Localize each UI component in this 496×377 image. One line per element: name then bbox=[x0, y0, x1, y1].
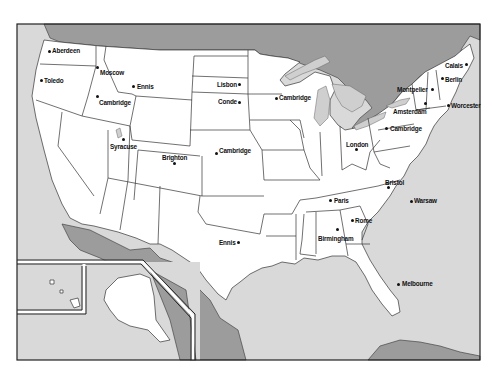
city-marker bbox=[385, 127, 388, 130]
city-marker bbox=[238, 101, 241, 104]
city-marker bbox=[431, 88, 434, 91]
city-label: Calais bbox=[445, 61, 463, 70]
city-marker bbox=[336, 228, 339, 231]
city-label: Cambridge bbox=[99, 98, 131, 107]
city-label: Warsaw bbox=[414, 196, 437, 205]
city-label: Cambridge bbox=[279, 93, 311, 102]
city-label: Worcester bbox=[451, 101, 481, 110]
city-marker bbox=[122, 138, 125, 141]
city-label: Aberdeen bbox=[52, 46, 80, 55]
city-marker bbox=[238, 83, 241, 86]
inset-panels bbox=[17, 260, 200, 360]
city-label: London bbox=[346, 140, 368, 149]
city-label: Amsterdam bbox=[393, 107, 427, 116]
city-marker bbox=[96, 66, 99, 69]
city-marker bbox=[40, 79, 43, 82]
city-label: Bristol bbox=[385, 178, 404, 187]
city-label: Lisbon bbox=[217, 80, 237, 89]
city-marker bbox=[397, 283, 400, 286]
city-label: Toledo bbox=[44, 76, 63, 85]
city-marker bbox=[48, 50, 51, 53]
city-label: Ennis bbox=[219, 238, 236, 247]
city-marker bbox=[132, 85, 135, 88]
city-label: Birmingham bbox=[318, 234, 354, 243]
city-label: Brighton bbox=[162, 153, 187, 162]
city-marker bbox=[215, 152, 218, 155]
city-marker bbox=[424, 102, 427, 105]
city-label: Montpelier bbox=[397, 85, 428, 94]
city-marker bbox=[351, 219, 354, 222]
city-marker bbox=[275, 97, 278, 100]
city-marker bbox=[441, 77, 444, 80]
city-marker bbox=[447, 104, 450, 107]
city-label: Conde bbox=[218, 97, 237, 106]
city-label: Paris bbox=[334, 196, 349, 205]
city-marker bbox=[410, 200, 413, 203]
city-label: Melbourne bbox=[402, 279, 433, 288]
city-marker bbox=[465, 63, 468, 66]
city-marker bbox=[329, 199, 332, 202]
city-label: Moscow bbox=[100, 68, 124, 77]
city-marker bbox=[237, 241, 240, 244]
city-label: Berlin bbox=[445, 75, 462, 84]
city-label: Cambridge bbox=[219, 146, 251, 155]
city-label: Ennis bbox=[137, 82, 154, 91]
city-label: Rome bbox=[355, 216, 372, 225]
us-map bbox=[0, 0, 496, 377]
city-label: Syracuse bbox=[110, 142, 137, 151]
city-label: Cambridge bbox=[390, 124, 422, 133]
